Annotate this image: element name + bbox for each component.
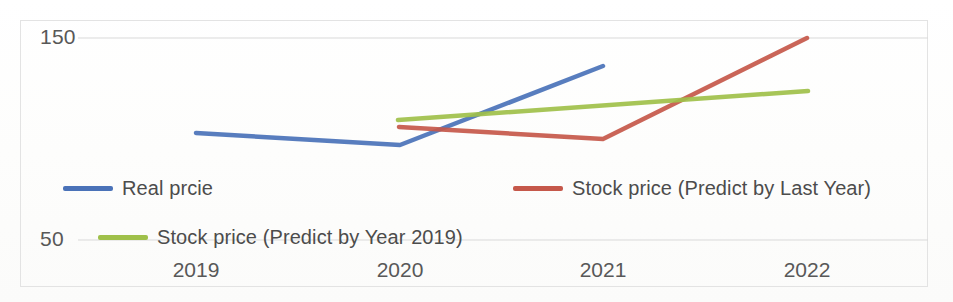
legend-item-predict-last-year[interactable]: Stock price (Predict by Last Year) xyxy=(513,177,871,200)
legend-swatch-icon-blue xyxy=(63,186,113,191)
legend-label-real-prcie: Real prcie xyxy=(122,177,213,200)
chart-canvas xyxy=(0,0,953,302)
x-axis-tick-2019: 2019 xyxy=(151,258,241,282)
y-axis-label-top: 150 xyxy=(40,25,76,49)
legend-swatch-icon-green xyxy=(98,235,148,240)
legend-item-predict-year-2019[interactable]: Stock price (Predict by Year 2019) xyxy=(98,226,463,249)
legend-swatch-icon-red xyxy=(513,186,563,191)
legend-item-real-prcie[interactable]: Real prcie xyxy=(63,177,213,200)
x-axis-tick-2022: 2022 xyxy=(762,258,852,282)
series-line-predict-year-2019 xyxy=(398,91,808,120)
x-axis-tick-2020: 2020 xyxy=(355,258,445,282)
legend-label-predict-last-year: Stock price (Predict by Last Year) xyxy=(572,177,871,200)
series-line-real-prcie xyxy=(196,66,603,145)
y-axis-label-bottom: 50 xyxy=(40,227,64,251)
x-axis-tick-2021: 2021 xyxy=(558,258,648,282)
legend-label-predict-year-2019: Stock price (Predict by Year 2019) xyxy=(157,226,463,249)
chart-screenshot: 150 50 2019 2020 2021 2022 Real prcie St… xyxy=(0,0,953,302)
